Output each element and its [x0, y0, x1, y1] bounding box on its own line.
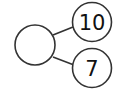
connector-top	[53, 27, 73, 35]
part-label-bottom: 7	[85, 57, 98, 81]
connector-bottom	[53, 57, 74, 65]
part-label-top: 10	[79, 11, 106, 35]
whole-circle[interactable]	[15, 25, 55, 65]
number-bond-diagram: 10 7	[0, 0, 118, 89]
